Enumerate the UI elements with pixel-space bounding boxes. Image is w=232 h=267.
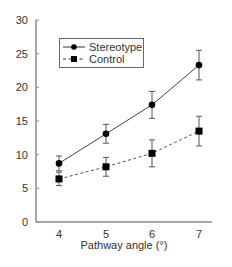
legend-label: Stereotype <box>89 41 142 53</box>
data-point-circle <box>56 160 63 167</box>
y-tick-label: 15 <box>16 115 28 127</box>
data-point-square <box>196 128 203 135</box>
legend-marker-square <box>71 56 77 62</box>
legend: StereotypeControl <box>60 39 144 68</box>
series-line <box>59 131 199 179</box>
y-tick-label: 5 <box>22 182 28 194</box>
data-point-square <box>103 163 110 170</box>
data-point-circle <box>103 130 110 137</box>
data-point-square <box>56 175 63 182</box>
y-tick-label: 25 <box>16 48 28 60</box>
y-tick-label: 30 <box>16 14 28 26</box>
x-axis-label: Pathway angle (°) <box>81 239 168 251</box>
legend-label: Control <box>89 53 124 65</box>
y-tick-label: 10 <box>16 149 28 161</box>
data-point-square <box>149 150 156 157</box>
data-point-circle <box>149 102 156 109</box>
series-line <box>59 65 199 163</box>
y-tick-label: 20 <box>16 81 28 93</box>
data-point-circle <box>196 62 203 69</box>
plot-series <box>56 50 203 185</box>
line-chart: 0510152025304567 StereotypeControl Pathw… <box>0 0 232 267</box>
y-tick-label: 0 <box>22 216 28 228</box>
series-control <box>56 116 203 185</box>
x-tick-label: 7 <box>196 228 202 240</box>
legend-marker-circle <box>71 44 77 50</box>
series-stereotype <box>56 50 203 171</box>
x-tick-label: 4 <box>56 228 62 240</box>
